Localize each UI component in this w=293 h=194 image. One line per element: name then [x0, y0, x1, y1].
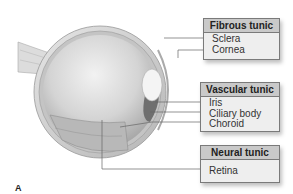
label-sclera: Sclera [204, 34, 279, 45]
vascular-tunic-box: Vascular tunic Iris Ciliary body Choroid [200, 82, 280, 132]
label-choroid: Choroid [201, 119, 279, 130]
vascular-tunic-title: Vascular tunic [201, 83, 279, 97]
neural-tunic-title: Neural tunic [201, 146, 279, 160]
label-iris: Iris [201, 98, 279, 109]
neural-tunic-box: Neural tunic Retina [200, 145, 280, 183]
fibrous-tunic-box: Fibrous tunic Sclera Cornea [203, 18, 280, 60]
figure-label: A [15, 183, 22, 193]
label-retina: Retina [201, 166, 279, 177]
fibrous-tunic-title: Fibrous tunic [204, 19, 279, 33]
label-cornea: Cornea [204, 45, 279, 56]
lens [142, 69, 162, 101]
